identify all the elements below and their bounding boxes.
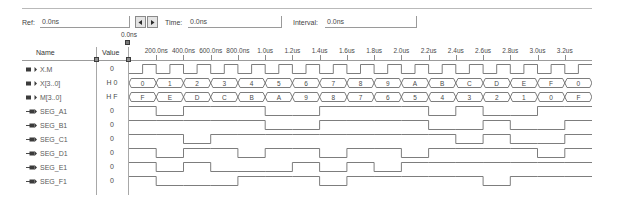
signal-value-cell: 0 (98, 104, 126, 118)
time-tick-label: 3.2us (557, 47, 573, 54)
signal-row-m30[interactable]: M[3..0] (26, 90, 96, 104)
time-tick-label: 1.0us (257, 47, 273, 54)
wave-row-x30: 0123456789ABCDEF0 (129, 79, 592, 88)
waveform-plot: 0123456789ABCDEF0FEDCBA9876543210F (129, 60, 592, 195)
interval-label: Interval: (293, 19, 318, 26)
bus-icon (26, 80, 37, 87)
bus-value-label: 4 (250, 80, 254, 87)
bus-value-label: 2 (195, 80, 199, 87)
bus-value-label: 4 (440, 94, 444, 101)
bus-value-label: E (522, 80, 527, 87)
bus-icon (26, 94, 37, 101)
signal-name-label: SEG_F1 (40, 178, 67, 185)
time-ruler[interactable]: 200.0ns400.0ns600.0ns800.0ns1.0us1.2us1.… (129, 47, 592, 60)
bus-value-label: 0 (141, 80, 145, 87)
bus-value-label: 1 (168, 80, 172, 87)
bus-value-label: A (413, 80, 418, 87)
time-tick-label: 1.8us (366, 47, 382, 54)
waveform-panel: Name Value X.MX[3..0]M[3..0]SEG_A1SEG_B1… (22, 47, 592, 195)
bus-value-label: F (576, 94, 580, 101)
signal-name-label: SEG_A1 (40, 108, 67, 115)
right-arrow-icon (149, 19, 156, 26)
bus-value-label: 8 (331, 94, 335, 101)
bus-value-label: 6 (386, 94, 390, 101)
signal-value-cell: 0 (98, 174, 126, 188)
signal-row-segd1[interactable]: SEG_D1 (26, 146, 96, 160)
cursor-time-label: 0.0ns (121, 31, 137, 38)
bus-value-label: B (440, 80, 444, 87)
bus-value-label: A (277, 94, 282, 101)
time-tick-label: 800.0ns (226, 47, 249, 54)
wave-row-segf1 (129, 177, 592, 186)
output-signal-icon (26, 136, 37, 143)
top-divider (22, 8, 592, 9)
output-signal-icon (26, 108, 37, 115)
wave-row-segc1 (129, 135, 592, 144)
signal-value-cell: H 0 (98, 76, 126, 90)
bus-value-label: 6 (304, 80, 308, 87)
bus-value-label: 5 (277, 80, 281, 87)
signal-name-label: SEG_E1 (40, 164, 67, 171)
column-header-value: Value (102, 47, 119, 59)
signal-name-label: X[3..0] (40, 80, 60, 87)
signal-row-segc1[interactable]: SEG_C1 (26, 132, 96, 146)
name-column-divider (96, 47, 97, 195)
bus-value-label: C (467, 80, 472, 87)
time-tick-label: 2.6us (475, 47, 491, 54)
time-input[interactable]: 0.0ns (188, 16, 282, 28)
signal-row-sega1[interactable]: SEG_A1 (26, 104, 96, 118)
time-tick-label: 2.2us (421, 47, 437, 54)
cursor-next-button[interactable] (147, 16, 158, 28)
time-tick-label: 400.0ns (172, 47, 195, 54)
signal-row-segf1[interactable]: SEG_F1 (26, 174, 96, 188)
signal-value-cell: 0 (98, 146, 126, 160)
wave-row-xm (129, 65, 592, 74)
signal-name-label: X.M (40, 66, 52, 73)
cursor-step-buttons (135, 16, 158, 28)
bus-value-label: B (249, 94, 253, 101)
wave-canvas-area[interactable]: 200.0ns400.0ns600.0ns800.0ns1.0us1.2us1.… (129, 47, 592, 195)
signal-row-segb1[interactable]: SEG_B1 (26, 118, 96, 132)
signal-value-cell: 0 (98, 62, 126, 76)
cursor-handle[interactable] (125, 40, 130, 45)
ref-input[interactable]: 0.0ns (40, 16, 130, 28)
signal-row-xm[interactable]: X.M (26, 62, 96, 76)
wave-row-m30: FEDCBA9876543210F (129, 93, 592, 102)
time-tick-label: 1.4us (312, 47, 328, 54)
bus-value-label: 5 (413, 94, 417, 101)
time-tick-label: 200.0ns (145, 47, 168, 54)
time-tick-label: 2.0us (393, 47, 409, 54)
output-signal-icon (26, 164, 37, 171)
signal-name-label: SEG_B1 (40, 122, 67, 129)
signal-name-label: SEG_C1 (40, 136, 68, 143)
signal-value-cell: 0 (98, 160, 126, 174)
interval-input[interactable]: 0.0ns (325, 16, 417, 28)
bus-value-label: F (141, 94, 145, 101)
signal-value-cell: 0 (98, 118, 126, 132)
wave-row-sege1 (129, 163, 592, 172)
bus-value-label: 3 (222, 80, 226, 87)
bus-value-label: 3 (468, 94, 472, 101)
bus-value-label: 7 (359, 94, 363, 101)
cursor-prev-button[interactable] (135, 16, 146, 28)
bus-value-label: D (494, 80, 499, 87)
bus-value-label: 0 (549, 94, 553, 101)
time-tick-label: 2.4us (448, 47, 464, 54)
time-tick-label: 3.0us (530, 47, 546, 54)
output-signal-icon (26, 122, 37, 129)
bus-value-label: D (195, 94, 200, 101)
output-signal-icon (26, 178, 37, 185)
ref-label: Ref: (22, 19, 35, 26)
signal-name-label: M[3..0] (40, 94, 61, 101)
wave-row-segb1 (129, 121, 592, 130)
waveform-viewer: Ref: 0.0ns Time: 0.0ns Interval: 0.0ns 0… (0, 0, 620, 202)
output-signal-icon (26, 150, 37, 157)
signal-row-x30[interactable]: X[3..0] (26, 76, 96, 90)
bus-value-label: 9 (304, 94, 308, 101)
bus-value-label: F (549, 80, 553, 87)
wave-row-sega1 (129, 107, 592, 116)
signal-row-sege1[interactable]: SEG_E1 (26, 160, 96, 174)
bus-value-label: C (222, 94, 227, 101)
bus-value-label: 0 (577, 80, 581, 87)
time-tick-label: 1.6us (339, 47, 355, 54)
